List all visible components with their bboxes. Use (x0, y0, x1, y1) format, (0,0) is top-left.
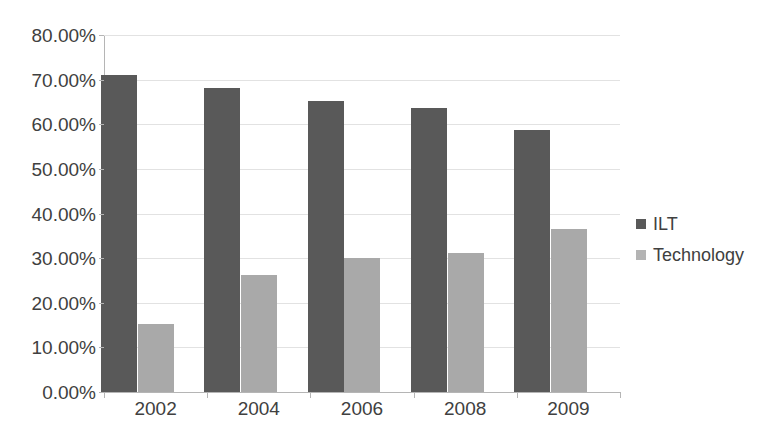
bar-ilt-2009[interactable] (514, 130, 550, 392)
x-axis-label-2008: 2008 (414, 399, 517, 418)
bar-chart: 80.00%70.00%60.00%50.00%40.00%30.00%20.0… (0, 0, 776, 440)
legend-item-ilt[interactable]: ILT (636, 215, 776, 233)
x-axis-label-2004: 2004 (207, 399, 310, 418)
legend-label: Technology (653, 246, 744, 264)
x-axis-label-2006: 2006 (310, 399, 413, 418)
y-axis-tick (99, 347, 104, 348)
x-axis-tick (104, 392, 105, 398)
bar-group (104, 35, 207, 392)
legend-label: ILT (653, 215, 678, 233)
y-axis-tick-label: 30.00% (4, 249, 96, 268)
y-axis-tick (99, 124, 104, 125)
y-axis-labels: 80.00%70.00%60.00%50.00%40.00%30.00%20.0… (0, 0, 96, 440)
x-axis-tick (620, 392, 621, 398)
x-axis-tick (517, 392, 518, 398)
bar-technology-2006[interactable] (344, 258, 380, 392)
y-axis-tick-label: 80.00% (4, 26, 96, 45)
bar-group (517, 35, 620, 392)
y-axis-tick (99, 169, 104, 170)
bar-technology-2009[interactable] (551, 229, 587, 392)
y-axis-tick (99, 392, 104, 393)
bar-ilt-2008[interactable] (411, 108, 447, 392)
y-axis-tick-label: 40.00% (4, 204, 96, 223)
legend-item-technology[interactable]: Technology (636, 246, 776, 264)
y-axis-tick (99, 214, 104, 215)
y-axis-tick (99, 35, 104, 36)
x-axis-baseline (104, 392, 620, 393)
y-axis-tick (99, 80, 104, 81)
bar-ilt-2002[interactable] (101, 75, 137, 392)
y-axis-tick-label: 10.00% (4, 338, 96, 357)
x-axis-label-2002: 2002 (104, 399, 207, 418)
y-axis-tick-label: 20.00% (4, 293, 96, 312)
x-axis-tick (310, 392, 311, 398)
y-axis-tick-label: 0.00% (4, 383, 96, 402)
chart-legend: ILTTechnology (636, 215, 776, 277)
y-axis-tick-label: 60.00% (4, 115, 96, 134)
bar-ilt-2004[interactable] (204, 88, 240, 392)
bar-group (310, 35, 413, 392)
bar-technology-2004[interactable] (241, 275, 277, 392)
y-axis-tick (99, 258, 104, 259)
y-axis-tick (99, 303, 104, 304)
bar-technology-2008[interactable] (448, 253, 484, 392)
x-axis-tick (207, 392, 208, 398)
x-axis-tick (414, 392, 415, 398)
bar-technology-2002[interactable] (138, 324, 174, 392)
legend-swatch-icon (636, 250, 646, 260)
bar-ilt-2006[interactable] (308, 101, 344, 392)
bar-group (414, 35, 517, 392)
y-axis-tick-label: 70.00% (4, 70, 96, 89)
x-axis-label-2009: 2009 (517, 399, 620, 418)
legend-swatch-icon (636, 219, 646, 229)
y-axis-tick-label: 50.00% (4, 159, 96, 178)
plot-area (104, 35, 620, 392)
bar-group (207, 35, 310, 392)
